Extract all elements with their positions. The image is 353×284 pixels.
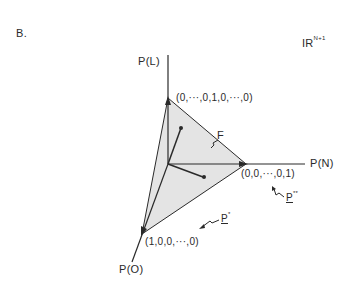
p-double-star-pointer [274, 189, 284, 197]
face-label: F [217, 129, 224, 141]
axis-label-p-o: P(O) [119, 263, 143, 275]
p-star-label: P* [221, 213, 231, 224]
axis-label-p-l: P(L) [138, 55, 160, 67]
panel-label: B. [16, 27, 27, 39]
p-star-pointer [202, 220, 219, 227]
vector-down-head [202, 175, 206, 179]
vector-up-head [179, 126, 183, 130]
p-double-star-label: P** [286, 192, 298, 203]
vertex-label-top: (0,···,0,1,0,···,0) [176, 92, 253, 103]
axis-label-p-n: P(N) [310, 157, 334, 169]
space-label: IRN+1 [302, 37, 326, 49]
vertex-label-right: (0,0,···,0,1) [241, 168, 295, 179]
vertex-label-bottom-left: (1,0,0,···,0) [145, 236, 199, 247]
